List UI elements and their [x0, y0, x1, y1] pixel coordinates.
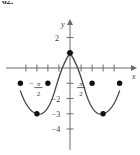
y-axis-arrowhead: [67, 19, 73, 25]
fraction-numerator: π: [79, 80, 83, 88]
fraction-denominator: 2: [37, 90, 41, 98]
data-point: [34, 111, 39, 116]
y-tick-label-2: 2: [55, 34, 59, 43]
data-point: [18, 81, 23, 86]
fraction-denominator: 2: [79, 90, 83, 98]
data-point: [45, 81, 50, 86]
neg-sign: −: [29, 79, 34, 88]
data-point: [67, 50, 73, 56]
problem-number: 62.: [2, 0, 13, 6]
data-point: [89, 81, 94, 86]
y-tick-label-neg3: −3: [52, 110, 61, 119]
y-tick-label-neg4: −4: [52, 125, 61, 134]
y-tick-label-neg2: −2: [52, 95, 61, 104]
fraction-numerator: π: [37, 80, 41, 88]
figure-root: 62.: [0, 0, 140, 155]
x-axis-label: x: [131, 72, 136, 81]
data-point: [117, 81, 122, 86]
data-point: [100, 111, 105, 116]
graph-plot: x y 2 −2 −3 −4 − π 2 π 2: [0, 8, 140, 155]
x-tick-label-neg-pi-over-2: − π 2: [29, 79, 42, 98]
x-axis-arrowhead: [131, 65, 137, 71]
y-axis-label: y: [60, 20, 65, 29]
